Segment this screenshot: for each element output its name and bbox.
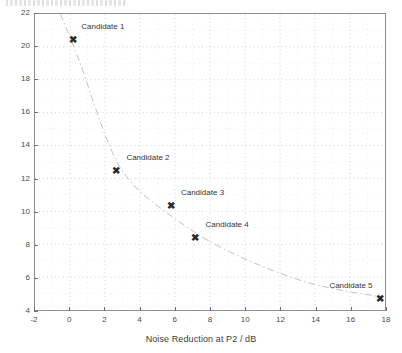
data-point-label: Candidate 3 xyxy=(181,189,224,197)
x-tick-mark xyxy=(280,307,281,311)
data-point-marker: ✖ xyxy=(167,201,175,211)
y-tick-mark xyxy=(34,278,38,279)
y-tick-mark xyxy=(34,212,38,213)
data-point-label: Candidate 5 xyxy=(329,282,372,290)
y-tick-mark xyxy=(34,245,38,246)
y-tick-label: 4 xyxy=(6,307,30,315)
x-tick-mark xyxy=(34,307,35,311)
y-tick-label: 6 xyxy=(6,274,30,282)
y-tick-label: 20 xyxy=(6,42,30,50)
y-tick-label: 18 xyxy=(6,75,30,83)
y-tick-mark xyxy=(34,79,38,80)
data-point-label: Candidate 4 xyxy=(206,221,249,229)
data-point-marker: ✖ xyxy=(69,35,77,45)
y-tick-label: 12 xyxy=(6,175,30,183)
x-tick-label: 10 xyxy=(241,316,250,324)
y-tick-mark xyxy=(34,179,38,180)
x-tick-mark xyxy=(140,307,141,311)
x-tick-mark xyxy=(69,307,70,311)
y-tick-label: 22 xyxy=(6,9,30,17)
plot-area: ✖Candidate 1✖Candidate 2✖Candidate 3✖Can… xyxy=(34,13,386,311)
x-tick-label: 16 xyxy=(346,316,355,324)
x-tick-label: 8 xyxy=(208,316,212,324)
y-tick-label: 10 xyxy=(6,208,30,216)
x-tick-label: 14 xyxy=(311,316,320,324)
x-tick-mark xyxy=(175,307,176,311)
y-tick-mark xyxy=(34,311,38,312)
scan-noise-artifact xyxy=(6,0,126,6)
x-tick-mark xyxy=(245,307,246,311)
x-tick-mark xyxy=(316,307,317,311)
x-tick-label: 4 xyxy=(137,316,141,324)
x-tick-mark xyxy=(104,307,105,311)
x-tick-mark xyxy=(210,307,211,311)
x-tick-label: 12 xyxy=(276,316,285,324)
y-tick-mark xyxy=(34,46,38,47)
y-tick-mark xyxy=(34,145,38,146)
y-tick-label: 8 xyxy=(6,241,30,249)
y-tick-mark xyxy=(34,112,38,113)
x-tick-label: 18 xyxy=(382,316,391,324)
x-tick-label: -2 xyxy=(30,316,37,324)
x-axis-title: Noise Reduction at P2 / dB xyxy=(0,334,402,344)
x-tick-label: 2 xyxy=(102,316,106,324)
x-tick-mark xyxy=(351,307,352,311)
y-tick-label: 14 xyxy=(6,141,30,149)
data-point-label: Candidate 1 xyxy=(81,23,124,31)
x-tick-mark xyxy=(386,307,387,311)
data-points-layer: ✖Candidate 1✖Candidate 2✖Candidate 3✖Can… xyxy=(35,14,385,310)
y-tick-mark xyxy=(34,13,38,14)
y-tick-label: 16 xyxy=(6,108,30,116)
x-tick-label: 0 xyxy=(67,316,71,324)
data-point-marker: ✖ xyxy=(112,166,120,176)
x-tick-label: 6 xyxy=(173,316,177,324)
data-point-marker: ✖ xyxy=(376,294,384,304)
data-point-label: Candidate 2 xyxy=(126,154,169,162)
scatter-plot-figure: ✖Candidate 1✖Candidate 2✖Candidate 3✖Can… xyxy=(0,0,402,353)
data-point-marker: ✖ xyxy=(191,233,199,243)
